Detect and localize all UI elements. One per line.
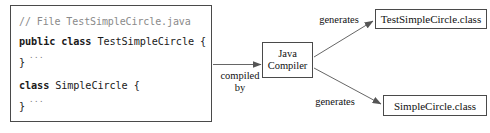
source-code-box: // File TestSimpleCircle.java public cla… (10, 5, 212, 122)
code-closing-brace-2: } (19, 101, 25, 112)
code-identifier-simplecircle: SimpleCircle { (55, 80, 139, 91)
output-class-file-testsimplecircle: TestSimpleCircle.class (375, 9, 487, 29)
java-compiler-line2: Compiler (268, 60, 308, 72)
output-class-file-simplecircle: SimpleCircle.class (383, 95, 487, 116)
code-line-public-class: public class TestSimpleCircle { (19, 36, 206, 47)
edge-label-generates-bottom: generates (306, 96, 364, 108)
code-keyword-class: class (19, 80, 55, 91)
code-keyword-public-class: public class (19, 36, 97, 47)
edge-label-compiled-by: compiled by (216, 70, 264, 93)
code-identifier-testsimplecircle: TestSimpleCircle { (97, 36, 206, 47)
code-closing-brace-1: } (19, 57, 25, 68)
arrow-generates-top (314, 21, 373, 57)
compilation-diagram: // File TestSimpleCircle.java public cla… (0, 0, 490, 133)
code-comment-line: // File TestSimpleCircle.java (19, 16, 191, 27)
code-ellipsis-1: ... (29, 51, 44, 60)
edge-label-generates-top: generates (310, 14, 368, 26)
code-line-class: class SimpleCircle { (19, 80, 140, 91)
java-compiler-box: Java Compiler (262, 42, 313, 78)
code-ellipsis-2: ... (29, 95, 44, 104)
java-compiler-line1: Java (278, 48, 297, 60)
